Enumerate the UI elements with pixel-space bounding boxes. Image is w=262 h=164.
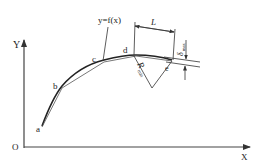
- deviation-subscript: max: [181, 43, 186, 51]
- radius-subscript: min: [136, 69, 144, 79]
- curve: [42, 55, 172, 127]
- diagram-canvas: Y X O a b c d e y=f(x) L R min δ max: [0, 0, 262, 164]
- x-axis-label: X: [241, 152, 248, 162]
- length-label: L: [150, 17, 156, 27]
- radius-label: R min: [133, 59, 151, 78]
- point-a-label: a: [36, 124, 40, 134]
- deviation-label: δ max: [176, 43, 186, 56]
- function-leader-line: [103, 27, 108, 61]
- point-c-label: c: [92, 54, 96, 64]
- point-d-label: d: [123, 45, 128, 55]
- point-b-label: b: [53, 81, 58, 91]
- deviation-symbol: δ: [176, 52, 185, 56]
- y-axis-label: Y: [13, 39, 20, 50]
- function-label: y=f(x): [98, 15, 121, 25]
- origin-label: O: [12, 142, 19, 152]
